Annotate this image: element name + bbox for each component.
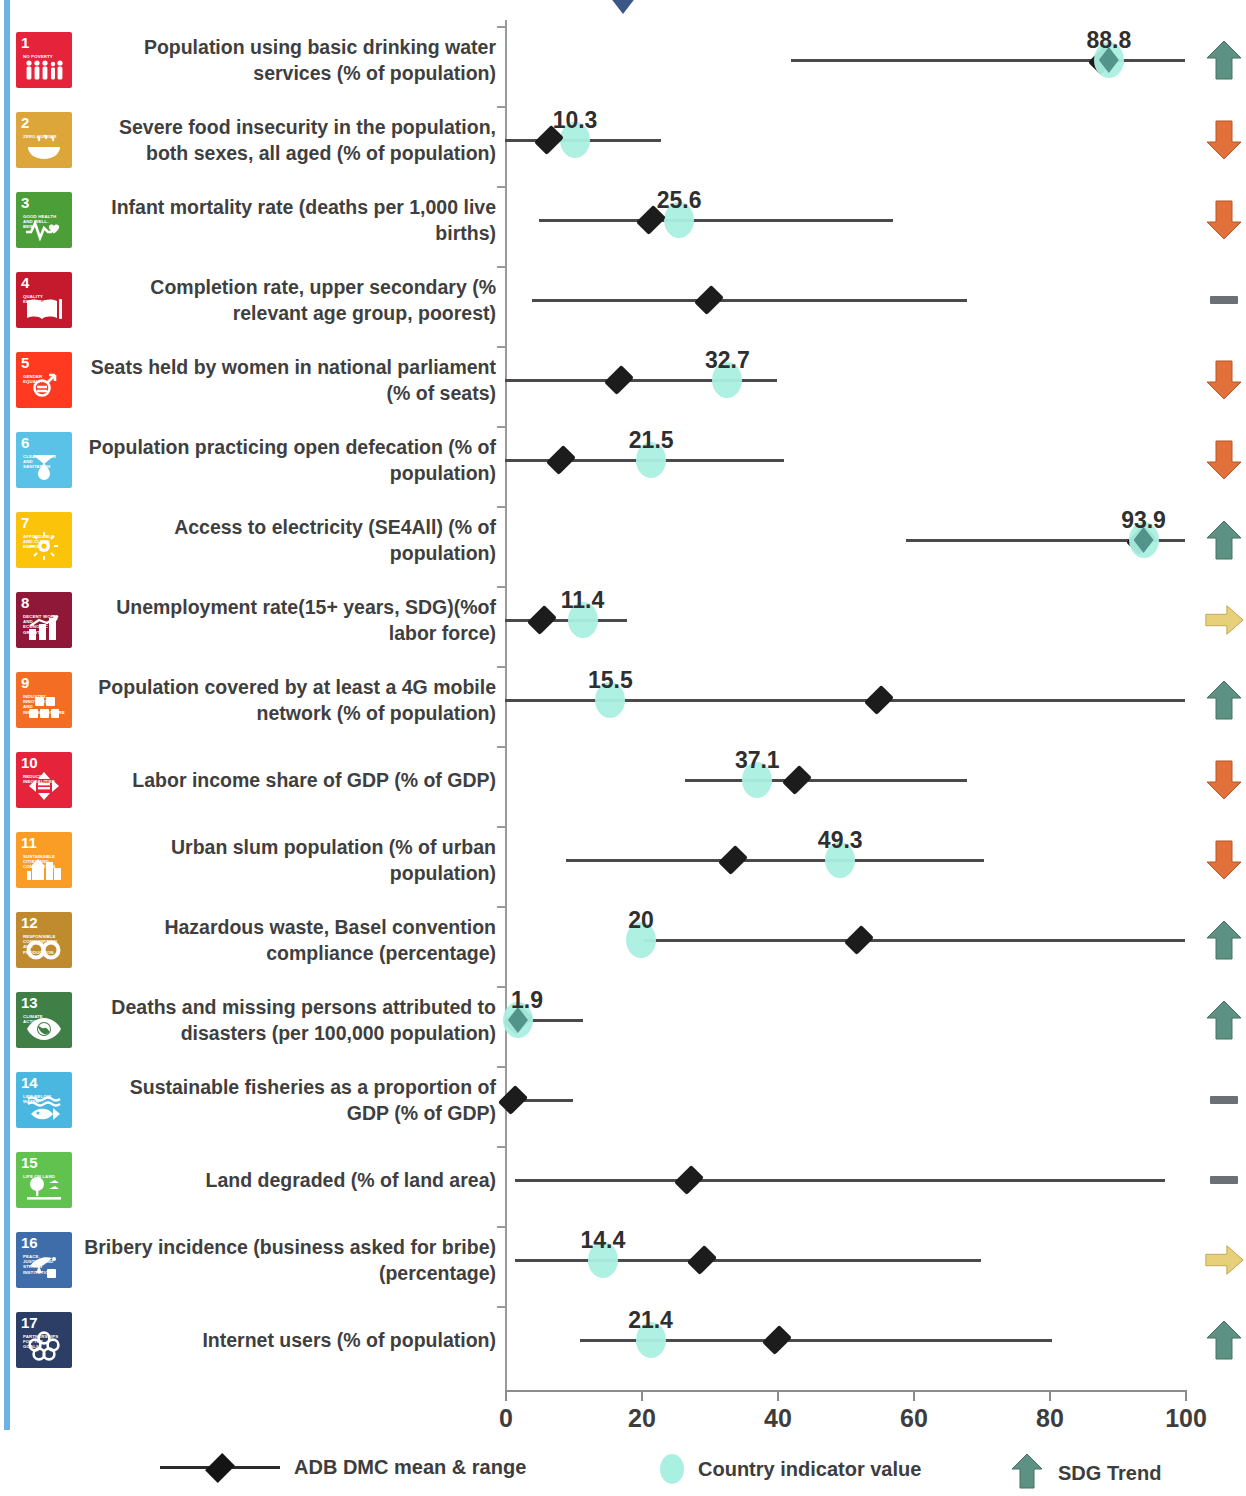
top-blue-diamond-marker bbox=[612, 0, 634, 14]
sdg-goal-glyph-icon bbox=[16, 939, 72, 965]
x-axis-tick bbox=[913, 1390, 915, 1401]
indicator-plot: 15.5 bbox=[505, 660, 1185, 740]
sdg-goal-7-icon: 7AFFORDABLE AND CLEAN ENERGY bbox=[16, 512, 72, 568]
legend-item-country-value: Country indicator value bbox=[660, 1454, 921, 1484]
mean-range-line bbox=[685, 779, 967, 782]
country-value-label: 21.4 bbox=[628, 1307, 673, 1334]
sdg-goal-number: 11 bbox=[21, 836, 37, 849]
indicator-plot: 93.9 bbox=[505, 500, 1185, 580]
x-axis-tick-label: 100 bbox=[1165, 1404, 1207, 1433]
sdg-goal-15-icon: 15LIFE ON LAND bbox=[16, 1152, 72, 1208]
sdg-goal-number: 2 bbox=[21, 116, 29, 129]
adb-dmc-mean-diamond bbox=[687, 1245, 717, 1275]
adb-dmc-mean-diamond bbox=[844, 925, 874, 955]
sdg-trend-side-icon bbox=[1203, 1220, 1245, 1300]
sdg-trend-up-icon bbox=[1203, 900, 1245, 980]
country-value-label: 10.3 bbox=[553, 107, 598, 134]
x-axis-tick-label: 40 bbox=[764, 1404, 792, 1433]
indicator-plot: 1.9 bbox=[505, 980, 1185, 1060]
indicator-label: Land degraded (% of land area) bbox=[84, 1167, 496, 1193]
indicator-label: Population practicing open defecation (%… bbox=[84, 434, 496, 486]
sdg-goal-glyph-icon bbox=[16, 451, 72, 485]
trend-up-arrow-icon bbox=[1010, 1452, 1044, 1494]
sdg-goal-glyph-icon bbox=[16, 695, 72, 725]
country-value-label: 15.5 bbox=[588, 667, 633, 694]
indicator-plot: 32.7 bbox=[505, 340, 1185, 420]
sdg-goal-11-icon: 11SUSTAINABLE CITIES AND COMMUNITIES bbox=[16, 832, 72, 888]
sdg-goal-17-icon: 17PARTNERSHIPS FOR THE GOALS bbox=[16, 1312, 72, 1368]
sdg-goal-9-icon: 9INDUSTRY, INNOVATION AND INFRASTRUCTURE bbox=[16, 672, 72, 728]
y-axis-tick bbox=[497, 106, 506, 108]
sdg-trend-down-icon bbox=[1203, 340, 1245, 420]
indicator-label: Population using basic drinking water se… bbox=[84, 34, 496, 86]
sdg-goal-glyph-icon bbox=[16, 1331, 72, 1365]
adb-dmc-mean-diamond bbox=[694, 285, 724, 315]
sdg-goal-number: 10 bbox=[21, 756, 38, 769]
sdg-goal-14-icon: 14LIFE BELOW WATER bbox=[16, 1072, 72, 1128]
sdg-goal-number: 4 bbox=[21, 276, 29, 289]
sdg-goal-number: 5 bbox=[21, 356, 29, 369]
sdg-goal-6-icon: 6CLEAN WATER AND SANITATION bbox=[16, 432, 72, 488]
legend-label-mean-range: ADB DMC mean & range bbox=[294, 1456, 526, 1479]
x-axis-tick bbox=[1185, 1390, 1187, 1401]
mean-range-line bbox=[644, 939, 1185, 942]
sdg-trend-flat-icon bbox=[1203, 1060, 1245, 1140]
indicator-row: 14LIFE BELOW WATERSustainable fisheries … bbox=[0, 1060, 1246, 1140]
adb-dmc-mean-diamond bbox=[674, 1165, 704, 1195]
indicator-row: 4QUALITY EDUCATIONCompletion rate, upper… bbox=[0, 260, 1246, 340]
y-axis-tick bbox=[497, 186, 506, 188]
sdg-goal-number: 15 bbox=[21, 1156, 38, 1169]
country-value-label: 11.4 bbox=[561, 587, 605, 614]
sdg-goal-glyph-icon bbox=[16, 1175, 72, 1205]
country-value-label: 25.6 bbox=[657, 187, 702, 214]
country-value-label: 93.9 bbox=[1121, 507, 1166, 534]
indicator-row: 7AFFORDABLE AND CLEAN ENERGYAccess to el… bbox=[0, 500, 1246, 580]
y-axis-tick bbox=[497, 1306, 506, 1308]
adb-dmc-mean-diamond bbox=[498, 1085, 528, 1115]
y-axis-tick bbox=[497, 986, 506, 988]
indicator-row: 1NO POVERTYPopulation using basic drinki… bbox=[0, 20, 1246, 100]
legend-label-country-value: Country indicator value bbox=[698, 1458, 921, 1481]
sdg-goal-glyph-icon bbox=[16, 135, 72, 165]
indicator-plot: 37.1 bbox=[505, 740, 1185, 820]
chart-legend: ADB DMC mean & range Country indicator v… bbox=[0, 1452, 1246, 1496]
sdg-trend-up-icon bbox=[1203, 980, 1245, 1060]
mean-range-line bbox=[505, 619, 627, 622]
sdg-trend-down-icon bbox=[1203, 100, 1245, 180]
sdg-goal-glyph-icon bbox=[16, 371, 72, 405]
indicator-row: 11SUSTAINABLE CITIES AND COMMUNITIESUrba… bbox=[0, 820, 1246, 900]
indicator-label: Access to electricity (SE4All) (% of pop… bbox=[84, 514, 496, 566]
indicator-plot: 21.4 bbox=[505, 1300, 1185, 1380]
adb-dmc-mean-diamond bbox=[864, 685, 894, 715]
y-axis-tick bbox=[497, 746, 506, 748]
sdg-goal-number: 17 bbox=[21, 1316, 38, 1329]
indicator-label: Urban slum population (% of urban popula… bbox=[84, 834, 496, 886]
country-value-label: 14.4 bbox=[581, 1227, 626, 1254]
legend-item-sdg-trend: SDG Trend bbox=[1010, 1452, 1161, 1494]
adb-dmc-mean-diamond bbox=[527, 605, 557, 635]
y-axis-tick bbox=[497, 906, 506, 908]
indicator-row: 10REDUCED INEQUALITIESLabor income share… bbox=[0, 740, 1246, 820]
x-axis-line bbox=[505, 1390, 1186, 1392]
indicator-plot: 20 bbox=[505, 900, 1185, 980]
sdg-trend-flat-icon bbox=[1203, 260, 1245, 340]
indicator-row: 15LIFE ON LANDLand degraded (% of land a… bbox=[0, 1140, 1246, 1220]
indicator-row: 13CLIMATE ACTIONDeaths and missing perso… bbox=[0, 980, 1246, 1060]
sdg-goal-5-icon: 5GENDER EQUALITY bbox=[16, 352, 72, 408]
indicator-label: Labor income share of GDP (% of GDP) bbox=[84, 767, 496, 793]
adb-dmc-mean-diamond bbox=[604, 365, 634, 395]
mean-range-line bbox=[539, 219, 893, 222]
x-axis-tick-label: 0 bbox=[499, 1404, 513, 1433]
sdg-goal-number: 14 bbox=[21, 1076, 38, 1089]
sdg-goal-glyph-icon bbox=[16, 1095, 72, 1125]
mean-range-line bbox=[532, 299, 967, 302]
indicator-row: 6CLEAN WATER AND SANITATIONPopulation pr… bbox=[0, 420, 1246, 500]
mean-range-line bbox=[515, 1259, 981, 1262]
sdg-indicator-dashboard: 1NO POVERTYPopulation using basic drinki… bbox=[0, 0, 1246, 1496]
sdg-trend-up-icon bbox=[1203, 20, 1245, 100]
adb-dmc-mean-diamond bbox=[546, 445, 576, 475]
sdg-goal-13-icon: 13CLIMATE ACTION bbox=[16, 992, 72, 1048]
indicator-label: Seats held by women in national parliame… bbox=[84, 354, 496, 406]
sdg-trend-down-icon bbox=[1203, 740, 1245, 820]
sdg-goal-number: 8 bbox=[21, 596, 29, 609]
